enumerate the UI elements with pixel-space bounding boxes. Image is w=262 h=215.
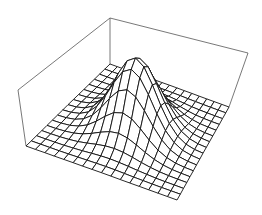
box-edge-top-back-right: [110, 18, 248, 53]
surface-plot: [0, 0, 262, 215]
box-edge-right-vertical: [229, 53, 248, 107]
gaussian-mesh-surface: [26, 58, 229, 200]
box-edge-left-vertical: [18, 90, 26, 146]
